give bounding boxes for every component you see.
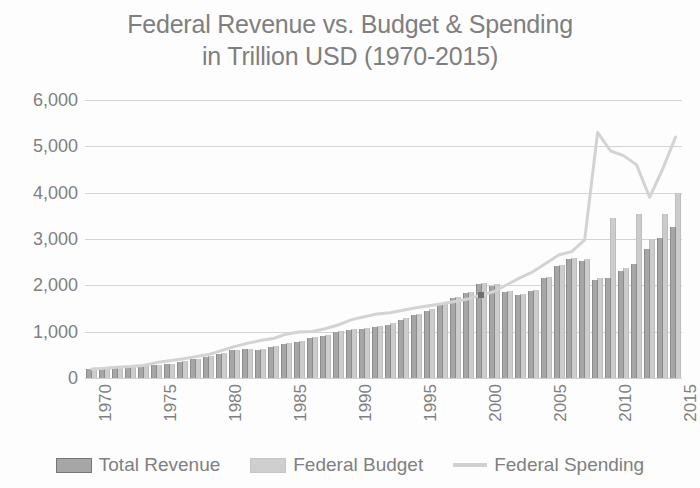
chart-title: Federal Revenue vs. Budget & Spending in… <box>40 8 660 72</box>
chart-legend: Total RevenueFederal BudgetFederal Spend… <box>0 450 700 480</box>
legend-swatch-revenue-icon <box>56 458 92 473</box>
legend-item[interactable]: Federal Spending <box>453 454 644 476</box>
x-axis-tick-label: 2015 <box>682 384 699 422</box>
x-axis-tick-label: 2005 <box>552 384 569 422</box>
legend-label: Federal Budget <box>293 454 423 476</box>
x-axis-tick-label: 1980 <box>227 384 244 422</box>
federal-spending-line <box>85 100 682 378</box>
legend-label: Federal Spending <box>494 454 644 476</box>
legend-label: Total Revenue <box>99 454 220 476</box>
y-axis-tick-label: 3,000 <box>14 230 78 248</box>
y-axis-tick-label: 1,000 <box>14 323 78 341</box>
x-axis-baseline <box>85 378 682 379</box>
legend-swatch-budget-icon <box>250 458 286 473</box>
x-axis-tick-label: 2010 <box>617 384 634 422</box>
chart-container: Federal Revenue vs. Budget & Spending in… <box>0 0 700 488</box>
x-axis-tick-label: 2000 <box>487 384 504 422</box>
legend-item[interactable]: Total Revenue <box>56 454 220 476</box>
y-axis: 6,0005,0004,0003,0002,0001,0000 <box>8 100 78 378</box>
legend-item[interactable]: Federal Budget <box>250 454 423 476</box>
x-axis-tick-label: 1995 <box>422 384 439 422</box>
x-axis-tick-label: 1990 <box>357 384 374 422</box>
spending-data-marker <box>478 292 484 298</box>
chart-title-line-2: in Trillion USD (1970-2015) <box>40 40 660 72</box>
x-axis-tick-label: 1975 <box>162 384 179 422</box>
x-axis-tick-label: 1985 <box>292 384 309 422</box>
chart-title-line-1: Federal Revenue vs. Budget & Spending <box>127 10 573 38</box>
y-axis-tick-label: 0 <box>14 369 78 387</box>
y-axis-tick-label: 4,000 <box>14 184 78 202</box>
plot-area <box>85 100 682 378</box>
x-axis-tick-label: 1970 <box>97 384 114 422</box>
y-axis-tick-label: 6,000 <box>14 91 78 109</box>
y-axis-tick-label: 5,000 <box>14 137 78 155</box>
x-axis: 1970197519801985199019952000200520102015 <box>85 382 682 438</box>
y-axis-tick-label: 2,000 <box>14 276 78 294</box>
legend-swatch-line-icon <box>453 463 487 467</box>
